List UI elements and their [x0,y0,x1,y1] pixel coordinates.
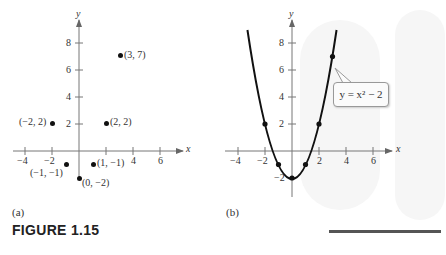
equation-callout: y = x² − 2 [333,82,389,107]
x-tick-label: 2 [317,155,322,166]
x-tick-label: 4 [344,155,349,166]
y-tick-label: −2 [274,172,285,183]
x-axis-label: x [396,143,400,154]
y-axis-label: y [289,8,293,19]
horizontal-rule [329,230,441,233]
figure-caption: FIGURE 1.15 [12,222,99,238]
x-tick-label: −4 [230,155,241,166]
panel-b-label: (b) [226,206,239,218]
y-tick-label: 6 [279,64,284,75]
y-tick-label: 8 [279,37,284,48]
y-tick-label: 2 [279,118,284,129]
y-tick-label: 4 [279,91,284,102]
panel-a-label: (a) [12,206,24,218]
x-tick-label: 6 [371,155,376,166]
x-tick-label: −2 [257,155,268,166]
